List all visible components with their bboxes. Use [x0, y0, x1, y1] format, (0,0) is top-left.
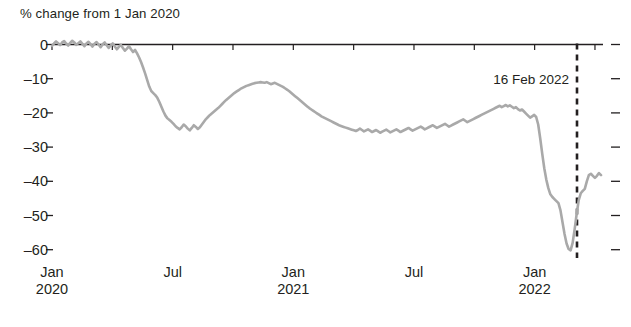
chart-container: % change from 1 Jan 2020 0–10–20–30–40–5…	[0, 0, 631, 327]
x-axis-month: Jul	[163, 264, 182, 280]
y-axis-label-neg60: –60	[4, 242, 48, 258]
y-axis-label-0: 0	[4, 37, 48, 53]
y-axis-label-neg30: –30	[4, 139, 48, 155]
x-axis-year: 2021	[277, 281, 309, 298]
x-axis-month: Jan	[40, 264, 63, 280]
x-axis-year: 2020	[36, 281, 68, 298]
x-axis-year: 2022	[518, 281, 550, 298]
y-axis-label-neg10: –10	[4, 71, 48, 87]
invasion-marker-label: 16 Feb 2022	[493, 72, 569, 87]
y-axis-label-neg20: –20	[4, 105, 48, 121]
x-axis-month: Jan	[523, 264, 546, 280]
x-axis-month: Jul	[405, 264, 424, 280]
x-axis-label-0: Jan2020	[36, 264, 68, 298]
x-axis-label-2: Jan2021	[277, 264, 309, 298]
x-axis-month: Jan	[282, 264, 305, 280]
y-axis-label-neg50: –50	[4, 208, 48, 224]
y-axis-label-neg40: –40	[4, 173, 48, 189]
x-axis-label-3: Jul	[405, 264, 424, 281]
x-axis-label-1: Jul	[163, 264, 182, 281]
x-axis-label-4: Jan2022	[518, 264, 550, 298]
